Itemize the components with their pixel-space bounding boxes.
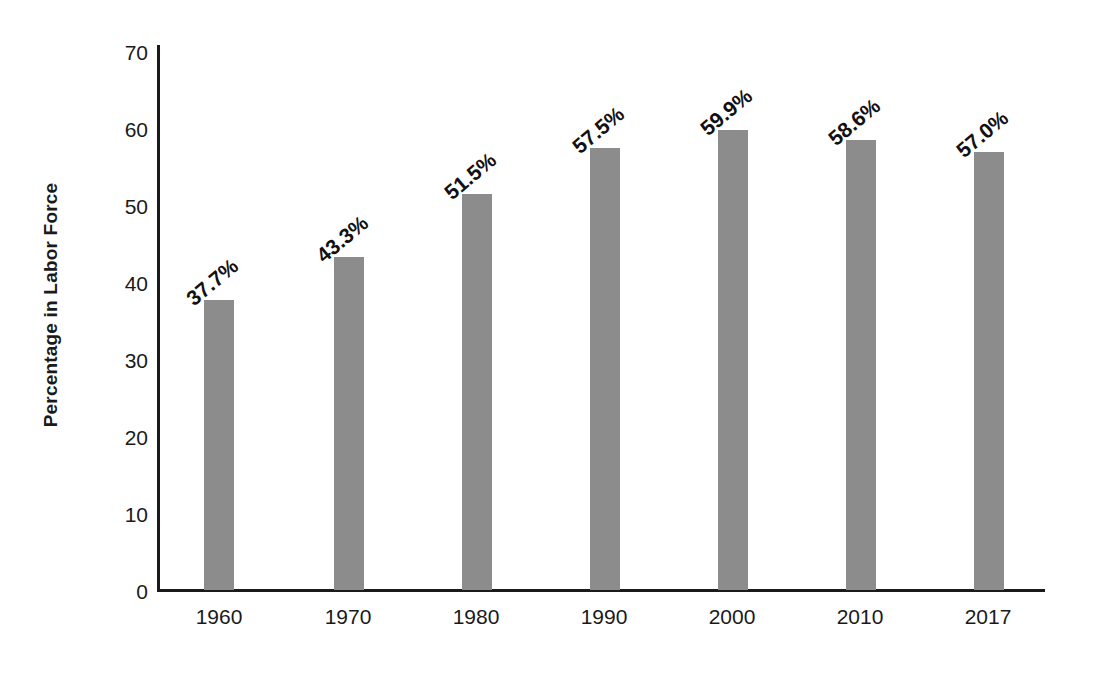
x-tick-label-2017: 2017 (928, 604, 1048, 629)
x-tick-label-1980: 1980 (416, 604, 536, 629)
x-tick-label-1960: 1960 (159, 604, 279, 629)
x-tick-label-1990: 1990 (544, 604, 664, 629)
x-tick-label-2000: 2000 (672, 604, 792, 629)
x-axis-tick-labels: 1960 1970 1980 1990 2000 2010 2017 (0, 0, 1098, 675)
x-tick-label-1970: 1970 (288, 604, 408, 629)
bar-chart: Percentage in Labor Force 70 60 50 40 30… (0, 0, 1098, 675)
x-tick-label-2010: 2010 (800, 604, 920, 629)
